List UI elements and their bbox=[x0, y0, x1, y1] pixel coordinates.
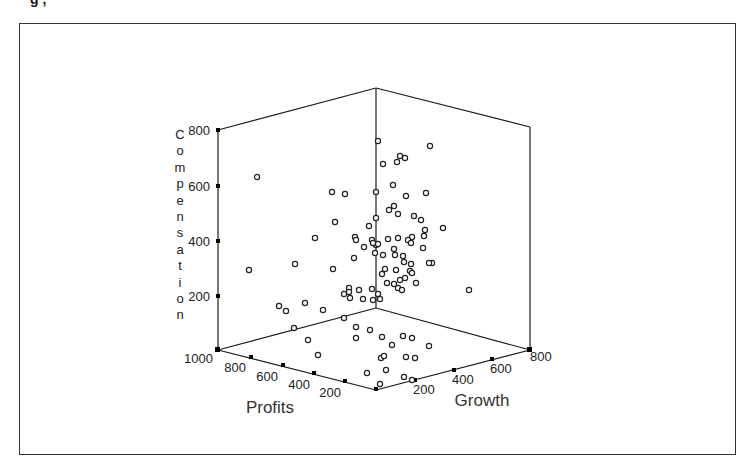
data-point bbox=[361, 244, 366, 249]
data-point bbox=[283, 308, 288, 313]
data-point bbox=[373, 215, 378, 220]
data-points bbox=[246, 138, 471, 386]
profits-axis: 1000 800 600 400 200 Profits bbox=[184, 351, 378, 417]
z-axis-title-char: n bbox=[176, 209, 183, 224]
profits-axis-title: Profits bbox=[246, 398, 294, 417]
data-point bbox=[403, 193, 408, 198]
data-point bbox=[291, 325, 296, 330]
data-point bbox=[408, 240, 413, 245]
profits-tick-200: 200 bbox=[319, 385, 341, 400]
data-point bbox=[375, 241, 380, 246]
data-point bbox=[400, 333, 405, 338]
data-point bbox=[401, 374, 406, 379]
data-point bbox=[421, 233, 426, 238]
z-axis-title-char: p bbox=[176, 176, 183, 191]
data-point bbox=[370, 240, 375, 245]
scatter-3d-plot: 800 600 400 200 Compensation 1000 800 60… bbox=[0, 0, 741, 466]
z-axis-title-char: n bbox=[176, 307, 183, 322]
data-point bbox=[391, 246, 396, 251]
data-point bbox=[353, 237, 358, 242]
data-point bbox=[380, 161, 385, 166]
growth-tick-600: 600 bbox=[490, 361, 512, 376]
data-point bbox=[384, 280, 389, 285]
data-point bbox=[379, 271, 384, 276]
z-axis-title-char: C bbox=[175, 127, 184, 142]
data-point bbox=[377, 381, 382, 386]
data-point bbox=[440, 225, 445, 230]
data-point bbox=[394, 159, 399, 164]
data-point bbox=[353, 335, 358, 340]
profits-tick-800: 800 bbox=[224, 360, 246, 375]
z-tick-800: 800 bbox=[188, 123, 210, 138]
data-point bbox=[320, 307, 325, 312]
data-point bbox=[420, 245, 425, 250]
data-point bbox=[366, 223, 371, 228]
data-point bbox=[409, 335, 414, 340]
data-point bbox=[426, 343, 431, 348]
profits-tick-600: 600 bbox=[256, 369, 278, 384]
data-point bbox=[329, 189, 334, 194]
data-point bbox=[418, 217, 423, 222]
data-point bbox=[373, 189, 378, 194]
z-axis-title-char: t bbox=[178, 258, 182, 273]
growth-axis-title: Growth bbox=[455, 391, 510, 410]
data-point bbox=[389, 342, 394, 347]
z-axis: 800 600 400 200 Compensation bbox=[175, 123, 220, 352]
data-point bbox=[403, 354, 408, 359]
growth-axis: 200 400 600 800 Growth bbox=[413, 347, 552, 410]
data-point bbox=[395, 235, 400, 240]
data-point bbox=[426, 260, 431, 265]
data-point bbox=[315, 352, 320, 357]
data-point bbox=[360, 296, 365, 301]
data-point bbox=[341, 291, 346, 296]
data-point bbox=[392, 252, 397, 257]
data-point bbox=[370, 297, 375, 302]
data-point bbox=[402, 155, 407, 160]
data-point bbox=[342, 191, 347, 196]
z-axis-title-char: m bbox=[175, 160, 186, 175]
data-point bbox=[391, 203, 396, 208]
data-point bbox=[427, 143, 432, 148]
z-tick-600: 600 bbox=[188, 179, 210, 194]
data-point bbox=[375, 138, 380, 143]
data-point bbox=[385, 236, 390, 241]
data-point bbox=[382, 266, 387, 271]
data-point bbox=[399, 287, 404, 292]
data-point bbox=[408, 261, 413, 266]
data-point bbox=[351, 255, 356, 260]
growth-tick-800: 800 bbox=[530, 349, 552, 364]
data-point bbox=[369, 286, 374, 291]
data-point bbox=[332, 219, 337, 224]
data-point bbox=[409, 270, 414, 275]
data-point bbox=[312, 235, 317, 240]
z-tick-200: 200 bbox=[188, 289, 210, 304]
data-point bbox=[341, 315, 346, 320]
data-point bbox=[422, 227, 427, 232]
data-point bbox=[381, 353, 386, 358]
data-point bbox=[401, 259, 406, 264]
data-point bbox=[246, 267, 251, 272]
data-point bbox=[383, 367, 388, 372]
data-point bbox=[367, 327, 372, 332]
z-axis-title-char: a bbox=[176, 242, 184, 257]
data-point bbox=[393, 267, 398, 272]
growth-tick-400: 400 bbox=[452, 372, 474, 387]
z-axis-title: Compensation bbox=[175, 127, 186, 322]
z-axis-title-char: s bbox=[177, 225, 184, 240]
growth-tick-200: 200 bbox=[413, 382, 435, 397]
data-point bbox=[276, 303, 281, 308]
data-point bbox=[364, 370, 369, 375]
data-point bbox=[330, 266, 335, 271]
data-point bbox=[379, 334, 384, 339]
data-point bbox=[402, 275, 407, 280]
data-point bbox=[302, 300, 307, 305]
z-axis-title-char: e bbox=[176, 193, 183, 208]
data-point bbox=[254, 174, 259, 179]
data-point bbox=[292, 261, 297, 266]
profits-tick-1000: 1000 bbox=[184, 351, 213, 366]
z-axis-title-char: i bbox=[179, 275, 182, 290]
data-point bbox=[353, 324, 358, 329]
profits-tick-400: 400 bbox=[288, 377, 310, 392]
data-point bbox=[413, 280, 418, 285]
data-point bbox=[347, 295, 352, 300]
